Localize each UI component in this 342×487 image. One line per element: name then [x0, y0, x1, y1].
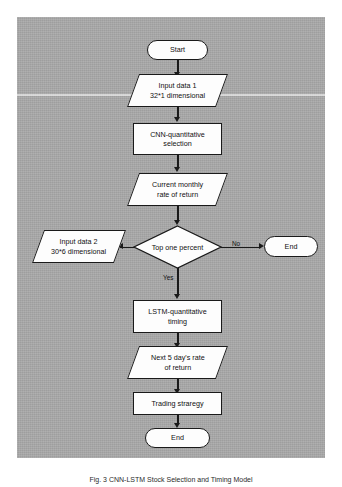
node-trading-strategy[interactable]: Trading straregy	[133, 392, 222, 415]
edge-label-no: No	[232, 240, 240, 247]
connector-decision-to-end-no	[221, 247, 261, 248]
edge-label-yes: Yes	[163, 274, 173, 281]
figure-caption: Fig. 3 CNN-LSTM Stock Selection and Timi…	[0, 476, 342, 487]
node-end-final[interactable]: End	[145, 428, 210, 448]
node-end-no-branch-label: End	[282, 242, 301, 252]
node-decision-label: Top one percent	[133, 225, 222, 269]
connector-decision-to-lstm	[177, 268, 178, 296]
node-start-label: Start	[167, 45, 188, 55]
node-trading-strategy-label: Trading straregy	[148, 399, 206, 409]
node-next5-return-label: Next 5 day's rate of return	[148, 353, 208, 372]
node-input-data-2-label: Input data 2 30*6 dimensional	[48, 237, 109, 256]
arrow-decision-to-lstm	[174, 294, 180, 299]
connector-return-to-decision	[177, 206, 178, 220]
flowchart-figure: No Yes Start Input data 1 32*1 dimension…	[0, 0, 342, 487]
node-input-data-1-label: Input data 1 32*1 dimensional	[147, 81, 208, 100]
node-end-final-label: End	[168, 433, 187, 443]
arrow-input1-to-cnn	[174, 117, 180, 122]
node-cnn-selection-label: CNN-quantitative selection	[147, 130, 208, 149]
node-end-no-branch[interactable]: End	[264, 236, 318, 257]
node-current-return-label: Current monthly rate of return	[149, 180, 206, 199]
node-start[interactable]: Start	[147, 40, 208, 60]
arrow-cnn-to-return	[174, 167, 180, 172]
node-lstm-timing-label: LSTM-quantitative timing	[145, 307, 209, 326]
node-cnn-selection[interactable]: CNN-quantitative selection	[133, 123, 222, 155]
node-decision-top-one-percent[interactable]: Top one percent	[133, 225, 222, 269]
node-current-return[interactable]: Current monthly rate of return	[127, 173, 228, 206]
node-input-data-2[interactable]: Input data 2 30*6 dimensional	[32, 230, 126, 263]
node-input-data-1[interactable]: Input data 1 32*1 dimensional	[127, 74, 228, 107]
node-next5-return[interactable]: Next 5 day's rate of return	[127, 346, 228, 379]
node-lstm-timing[interactable]: LSTM-quantitative timing	[133, 300, 222, 333]
